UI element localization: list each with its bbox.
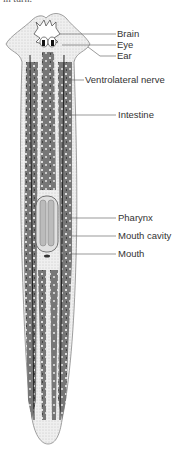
label-brain: Brain	[117, 29, 139, 39]
label-mouth: Mouth	[118, 249, 144, 259]
label-ventrolateral-nerve: Ventrolateral nerve	[85, 75, 165, 85]
intestine-central	[40, 52, 56, 190]
label-intestine: Intestine	[118, 110, 154, 120]
label-eye: Eye	[117, 40, 133, 50]
label-pharynx: Pharynx	[118, 213, 153, 223]
mouth	[44, 255, 50, 258]
label-ear: Ear	[117, 51, 132, 61]
pharynx	[36, 196, 58, 252]
label-mouth-cavity: Mouth cavity	[118, 231, 171, 241]
